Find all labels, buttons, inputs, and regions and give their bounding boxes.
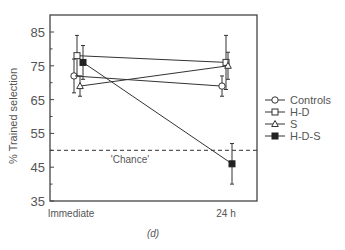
y-tick-label: 45: [31, 160, 45, 175]
chance-label: 'Chance': [111, 154, 149, 165]
y-axis-label: % Trained selection: [7, 68, 19, 164]
legend-item-s: S: [265, 118, 297, 130]
x-axis: Immediate24 h: [48, 208, 236, 219]
legend-item-h-d-s: H-D-S: [265, 130, 321, 142]
y-tick-label: 75: [31, 59, 45, 74]
legend-item-h-d: H-D: [265, 106, 310, 118]
legend-label: Controls: [290, 94, 331, 106]
series-h-d-s: [80, 46, 235, 185]
y-tick-label: 85: [31, 25, 45, 40]
legend-label: H-D-S: [290, 130, 321, 142]
chance-reference-line: 'Chance': [50, 150, 257, 165]
x-tick-label: 24 h: [216, 208, 235, 219]
series-controls: [71, 59, 225, 96]
line-chart: 354555657585 Immediate24 h 'Chance' Cont…: [0, 0, 345, 250]
legend: ControlsH-DSH-D-S: [265, 94, 331, 142]
legend-label: S: [290, 118, 297, 130]
y-tick-label: 55: [31, 126, 45, 141]
data-series: [71, 35, 235, 184]
y-tick-label: 65: [31, 93, 45, 108]
x-tick-label: Immediate: [48, 208, 95, 219]
legend-item-controls: Controls: [265, 94, 331, 106]
legend-label: H-D: [290, 106, 310, 118]
panel-label: (d): [147, 228, 159, 239]
y-tick-label: 35: [31, 194, 45, 209]
